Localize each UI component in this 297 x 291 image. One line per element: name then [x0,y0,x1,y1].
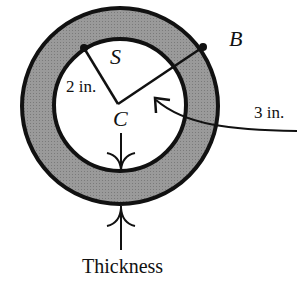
label-thickness: Thickness [82,256,163,276]
label-s: S [110,46,121,68]
point-b-dot [199,43,207,51]
label-b: B [229,28,242,50]
label-outer-radius: 3 in. [254,104,284,121]
point-s-dot [80,44,88,52]
label-inner-radius: 2 in. [66,78,96,95]
label-c: C [113,108,128,130]
annulus-diagram [0,0,297,291]
